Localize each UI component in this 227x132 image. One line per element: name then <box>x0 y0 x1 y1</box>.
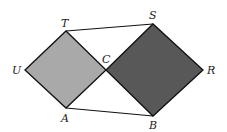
label-R: R <box>206 64 215 77</box>
label-B: B <box>148 119 157 132</box>
segment-AB <box>66 108 153 116</box>
label-S: S <box>149 9 157 22</box>
small-square-UTCA <box>25 31 106 108</box>
segment-TS <box>66 24 153 31</box>
label-T: T <box>61 17 70 30</box>
label-U: U <box>12 64 22 77</box>
geometry-diagram: U T C A S R B <box>0 0 227 132</box>
large-square-CSRB <box>106 24 203 116</box>
label-C: C <box>102 53 111 66</box>
label-A: A <box>60 112 69 125</box>
